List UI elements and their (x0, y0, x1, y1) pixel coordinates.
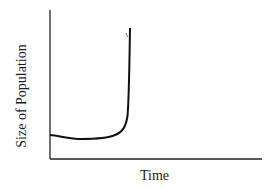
y-axis-label: Size of Population (14, 44, 30, 147)
curve-tick-mark (126, 33, 128, 37)
x-axis-label: Time (140, 168, 169, 184)
growth-curve (50, 28, 130, 139)
population-growth-chart (0, 0, 274, 188)
